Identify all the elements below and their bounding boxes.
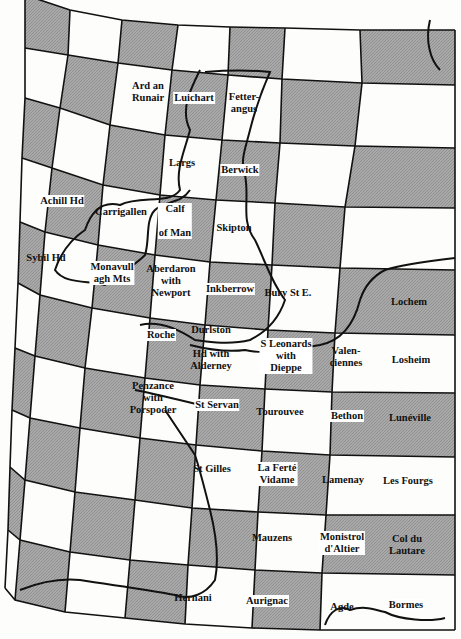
sheet-label-line: with xyxy=(130,392,177,404)
shaded-sheet-cell xyxy=(360,30,455,85)
sheet-label-line: Berwick xyxy=(221,164,258,176)
sheet-label: Les Fourgs xyxy=(382,475,434,487)
sheet-label-line: Achill Hd xyxy=(40,195,83,207)
grid-line-horizontal xyxy=(25,0,455,30)
sheet-label: Col duLautare xyxy=(388,533,426,557)
sheet-label: St Servan xyxy=(194,399,239,411)
shaded-sheet-cell xyxy=(205,262,272,330)
sheet-label-line: Alderney xyxy=(190,360,231,372)
sheet-label-line: Bethon xyxy=(331,410,363,422)
sheet-label: Carrigallen xyxy=(94,206,148,218)
sheet-label-line: Skipton xyxy=(216,222,251,234)
shaded-sheet-cell xyxy=(25,418,80,492)
sheet-label-line: Agde xyxy=(330,601,353,613)
sheet-label: Monavullagh Mts xyxy=(89,261,134,285)
sheet-label-line: St Gilles xyxy=(193,463,231,475)
shaded-sheet-cell xyxy=(280,79,362,146)
sheet-label-line: Monavull xyxy=(90,261,133,273)
shaded-sheet-cell xyxy=(330,392,455,457)
sheet-label: Agde xyxy=(329,601,354,613)
shaded-sheet-cell xyxy=(60,55,118,125)
sheet-label-line: Ard an xyxy=(132,80,164,92)
sheet-label-line: Luichart xyxy=(174,92,214,104)
sheet-label-line: Roche xyxy=(147,329,175,341)
sheet-label-line: with xyxy=(260,350,311,362)
shaded-sheet-cell xyxy=(345,146,455,208)
sheet-label: Sybil Hd xyxy=(25,252,66,264)
shaded-sheet-cell xyxy=(22,98,60,168)
sheet-label-line: Lamenay xyxy=(322,474,364,486)
sheet-label-line: Monistrol xyxy=(320,531,364,543)
sheet-label-line: Largs xyxy=(169,157,195,169)
sheet-label-line: Vidame xyxy=(258,474,297,486)
sheet-label-line: Dieppe xyxy=(260,362,311,374)
sheet-label-line: Lautare xyxy=(389,545,425,557)
sheet-label: Largs xyxy=(168,157,196,169)
sheet-label: Ard anRunair xyxy=(131,80,165,104)
sheet-label: Bury St E. xyxy=(264,287,313,299)
sheet-label: Hernani xyxy=(173,592,212,604)
sheet-label-line: Hernani xyxy=(174,592,211,604)
sheet-label: Lochem xyxy=(390,296,428,308)
sheet-label-line: Calf xyxy=(159,203,191,215)
sheet-label: St Gilles xyxy=(192,463,232,475)
sheet-label: Durlston Hd withAlderney xyxy=(189,324,232,372)
sheet-label: Mauzens xyxy=(251,532,293,544)
sheet-label-line: Newport xyxy=(146,287,195,299)
sheet-label: Fetter-angus xyxy=(228,91,261,115)
sheet-label-line: Lunéville xyxy=(389,412,431,424)
sheet-label: Losheim xyxy=(391,354,432,366)
sheet-label-line: Porspoder xyxy=(130,404,177,416)
sheet-label: Lamenay xyxy=(321,474,365,486)
sheet-label: Berwick xyxy=(220,164,259,176)
shaded-sheet-cell xyxy=(196,385,265,451)
sheet-label-line: Les Fourgs xyxy=(383,475,433,487)
sheet-label-line xyxy=(159,215,191,227)
sheet-label-line xyxy=(190,336,231,348)
sheet-label-line: Valen- xyxy=(330,345,363,357)
sheet-label: Luichart xyxy=(173,92,215,104)
sheet-label-line: Losheim xyxy=(392,354,431,366)
shaded-sheet-cell xyxy=(103,125,165,195)
sheet-label-line: Aurignac xyxy=(246,595,288,607)
sheet-label: Skipton xyxy=(215,222,252,234)
sheet-label: La FertéVidame xyxy=(257,462,298,486)
sheet-label-line: Tourouvee xyxy=(256,406,303,418)
sheet-label: AberdaronwithNewport xyxy=(145,263,196,299)
sheet-label-line: Durlston xyxy=(190,324,231,336)
sheet-label-line: Bury St E. xyxy=(265,287,312,299)
sheet-label-line: with xyxy=(146,275,195,287)
sheet-label: Achill Hd xyxy=(39,195,84,207)
sheet-label-line: S Leonards xyxy=(260,338,311,350)
sheet-label: Roche xyxy=(146,329,176,341)
sheet-label-line: Lochem xyxy=(391,296,427,308)
sheet-label-line: Penzance xyxy=(130,380,177,392)
sheet-label: Inkberrow xyxy=(205,283,255,295)
sheet-label: Calf of Man xyxy=(158,203,192,239)
shaded-sheet-cell xyxy=(70,492,135,560)
sheet-label-line: Carrigallen xyxy=(95,206,147,218)
sheet-label-line: La Ferté xyxy=(258,462,297,474)
sheet-index-map: Ard anRunairLuichartFetter-angusLargsBer… xyxy=(0,0,461,639)
sheet-label-line: Bormes xyxy=(389,599,423,611)
sheet-label-line: agh Mts xyxy=(90,273,133,285)
sheet-label-line: Sybil Hd xyxy=(26,252,65,264)
sheet-label-line: Inkberrow xyxy=(206,283,254,295)
shaded-sheet-cell xyxy=(165,70,228,140)
shaded-sheet-cell xyxy=(135,438,196,508)
sheet-label: Tourouvee xyxy=(255,406,304,418)
sheet-label-line: angus xyxy=(229,103,260,115)
sheet-label-line: Col du xyxy=(389,533,425,545)
sheet-label: PenzancewithPorspoder xyxy=(129,380,178,416)
sheet-label-line: ciennes xyxy=(330,357,363,369)
sheet-label: Monistrold'Altier xyxy=(319,531,365,555)
sheet-label-line: Fetter- xyxy=(229,91,260,103)
shaded-sheet-cell xyxy=(118,20,178,70)
sheet-label-line: Runair xyxy=(132,92,164,104)
sheet-label-line: of Man xyxy=(159,227,191,239)
sheet-label: Bormes xyxy=(388,599,424,611)
sheet-label: Aurignac xyxy=(245,595,289,607)
sheet-label: Bethon xyxy=(330,410,364,422)
shaded-sheet-cell xyxy=(272,203,345,268)
sheet-label-line: Hd with xyxy=(190,348,231,360)
